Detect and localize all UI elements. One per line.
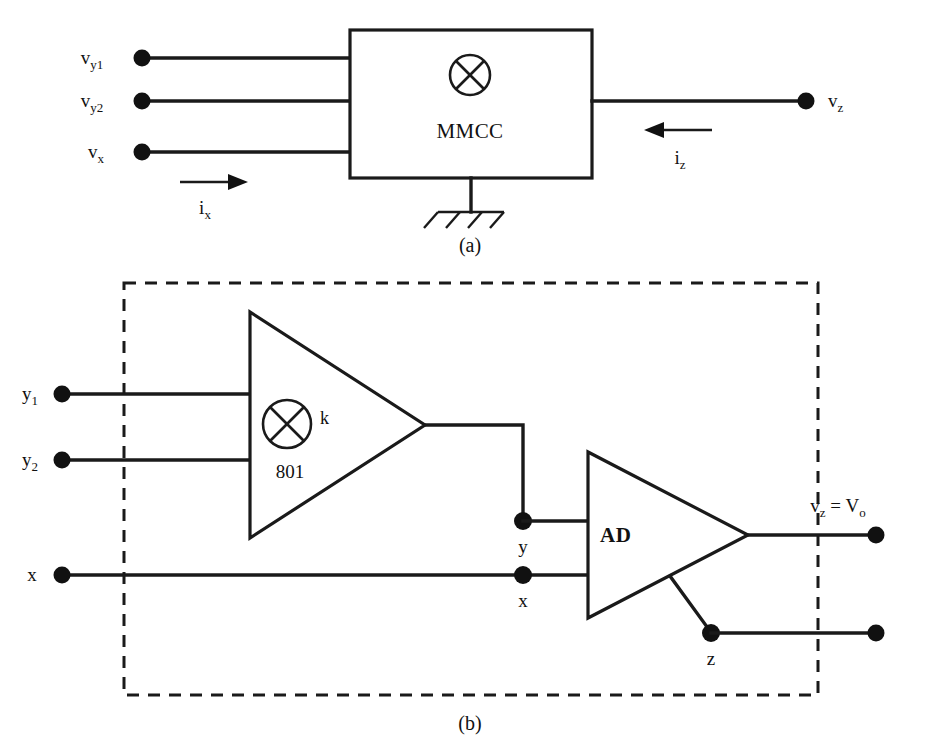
terminal-vx[interactable] (134, 144, 151, 161)
terminal-z-output[interactable] (868, 625, 885, 642)
terminal-vy2[interactable] (134, 93, 151, 110)
label-node-x: x (518, 590, 528, 611)
label-node-z: z (707, 648, 715, 669)
wire-multiplier-output (425, 425, 523, 521)
panel-a: vy1 vy2 vx MMCC (81, 30, 844, 257)
label-vy2: vy2 (81, 90, 104, 115)
terminal-y2[interactable] (54, 452, 71, 469)
circuit-diagram: vy1 vy2 vx MMCC (0, 0, 926, 753)
caption-b: (b) (458, 712, 481, 735)
label-ix: ix (199, 197, 211, 222)
multiplier-block[interactable] (250, 312, 425, 538)
terminal-vo[interactable] (868, 527, 885, 544)
terminal-y1[interactable] (54, 386, 71, 403)
caption-a: (a) (459, 234, 481, 257)
ad-block-label: AD (600, 523, 631, 547)
label-gain-k: k (320, 408, 329, 428)
terminal-vy1[interactable] (134, 50, 151, 67)
wire-z-stub (670, 576, 710, 631)
label-y2: y2 (22, 449, 38, 474)
label-part-801: 801 (276, 461, 305, 482)
label-vy1: vy1 (81, 47, 104, 72)
label-vz: vz (828, 90, 844, 115)
current-arrow-iz (644, 122, 712, 138)
panel-b: y1 y2 x k 801 y (22, 283, 885, 735)
node-x[interactable] (514, 566, 532, 584)
terminal-x[interactable] (54, 567, 71, 584)
figure-canvas: vy1 vy2 vx MMCC (0, 0, 926, 753)
mmcc-block-label: MMCC (437, 119, 504, 143)
current-arrow-ix (180, 174, 248, 190)
label-y1: y1 (22, 383, 38, 408)
terminal-vz[interactable] (798, 93, 815, 110)
label-x-input: x (27, 564, 37, 585)
chassis-ground-icon (424, 212, 504, 228)
label-iz: iz (674, 147, 685, 172)
mmcc-block[interactable] (350, 30, 592, 178)
label-node-y: y (518, 536, 528, 557)
label-vx: vx (88, 141, 105, 166)
